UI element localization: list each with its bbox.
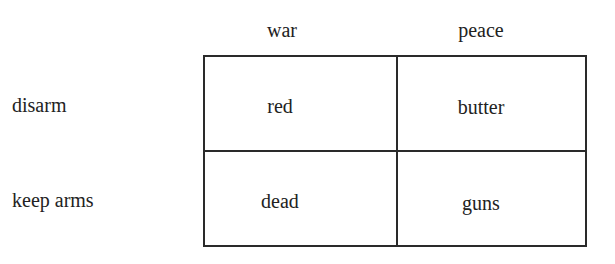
- cell-keep-arms-peace: guns: [462, 193, 500, 213]
- cell-disarm-peace: butter: [458, 97, 505, 117]
- column-header-peace: peace: [458, 20, 504, 40]
- row-header-disarm: disarm: [12, 95, 66, 115]
- column-header-war: war: [267, 20, 297, 40]
- cell-keep-arms-war: dead: [261, 191, 299, 211]
- matrix-grid: red butter dead guns: [203, 55, 587, 247]
- grid-divider-horizontal: [205, 150, 585, 152]
- cell-disarm-war: red: [267, 96, 293, 116]
- row-header-keep-arms: keep arms: [12, 190, 94, 210]
